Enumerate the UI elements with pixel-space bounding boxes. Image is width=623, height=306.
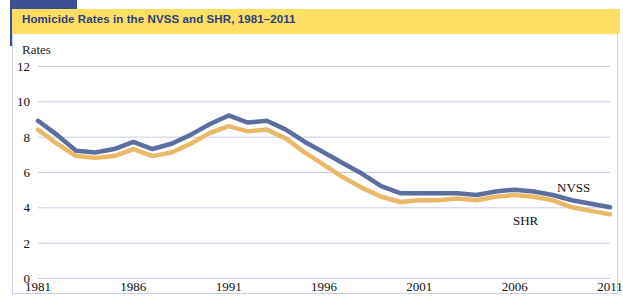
y-tick-label: 4 bbox=[0, 201, 30, 214]
x-tick-label: 1996 bbox=[311, 280, 337, 294]
plot-area bbox=[38, 66, 610, 278]
y-tick-label: 8 bbox=[0, 131, 30, 144]
y-tick-label: 10 bbox=[0, 95, 30, 108]
x-tick-label: 2011 bbox=[597, 280, 623, 294]
y-axis-tick-labels: 024681012 bbox=[0, 66, 34, 278]
series-line-nvss bbox=[38, 115, 610, 207]
y-tick-label: 6 bbox=[0, 166, 30, 179]
series-label-nvss: NVSS bbox=[557, 180, 590, 196]
series-label-shr: SHR bbox=[513, 213, 538, 229]
x-tick-label: 2001 bbox=[406, 280, 432, 294]
series-lines bbox=[38, 66, 610, 278]
y-tick-label: 12 bbox=[0, 60, 30, 73]
x-axis-tick-labels: 1981198619911996200120062011 bbox=[38, 280, 610, 298]
x-tick-label: 2006 bbox=[502, 280, 528, 294]
series-line-shr bbox=[38, 126, 610, 214]
chart-title: Homicide Rates in the NVSS and SHR, 1981… bbox=[22, 13, 296, 25]
x-tick-label: 1981 bbox=[25, 280, 51, 294]
y-axis-title: Rates bbox=[22, 42, 51, 58]
gridlines-group bbox=[38, 67, 610, 279]
x-tick-label: 1986 bbox=[120, 280, 146, 294]
x-tick-label: 1991 bbox=[216, 280, 242, 294]
y-tick-label: 2 bbox=[0, 237, 30, 250]
